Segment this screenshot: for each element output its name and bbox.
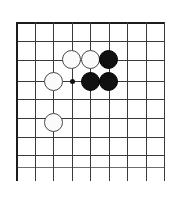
white-stone-c3[interactable] xyxy=(62,50,81,69)
grid-line-vertical-3 xyxy=(72,22,73,181)
grid-line-vertical-5 xyxy=(109,22,110,181)
grid-line-vertical-0 xyxy=(16,22,18,181)
white-stone-b4[interactable] xyxy=(44,72,63,91)
go-board[interactable] xyxy=(0,0,178,197)
grid-line-vertical-2 xyxy=(53,22,54,181)
black-stone-e4[interactable] xyxy=(99,72,118,91)
star-point-center xyxy=(70,79,75,84)
white-stone-d3[interactable] xyxy=(81,50,100,69)
grid-line-vertical-4 xyxy=(90,22,91,181)
black-stone-d4[interactable] xyxy=(81,72,100,91)
grid-line-vertical-8 xyxy=(164,22,165,181)
grid-line-vertical-1 xyxy=(35,22,36,181)
go-board-screenshot xyxy=(0,0,178,197)
grid-line-vertical-7 xyxy=(146,22,147,181)
white-stone-b6[interactable] xyxy=(44,113,63,132)
grid-line-vertical-6 xyxy=(127,22,128,181)
black-stone-e3[interactable] xyxy=(99,50,118,69)
